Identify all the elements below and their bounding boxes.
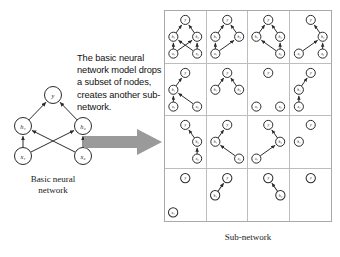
node-label-x1: x₁ [171, 52, 176, 56]
node-label-y: y [183, 176, 186, 180]
subnetwork-cell-8: yh₁x₁ [290, 64, 332, 117]
subnetwork-cell-10: yh₁x₂ [207, 116, 249, 169]
cell-nodes: yh₁ [294, 120, 315, 146]
basic-network-caption-line1: Basic neural [6, 174, 100, 185]
subnetwork-cell-svg-5: yh₁x₁x₂ [165, 64, 206, 116]
subnetwork-cell-svg-14: yh₁ [207, 169, 248, 222]
node-label-x2: x₂ [278, 104, 283, 108]
subnetwork-cell-svg-10: yh₁x₂ [207, 116, 248, 168]
subnetwork-cell-12: yh₁ [290, 116, 332, 169]
edge-x1-to-h2 [177, 40, 192, 51]
subnetwork-cell-15: yh₂ [248, 169, 290, 222]
node-label-x2: x₂ [278, 52, 283, 56]
cell-nodes: yh₁h₂x₁x₂ [169, 15, 202, 58]
node-label-y: y [308, 71, 311, 75]
node-label-x2: x₂ [236, 157, 241, 161]
node-label-y: y [266, 123, 269, 127]
edge-h1-to-y [176, 77, 182, 85]
edge-h2-to-y [60, 102, 77, 120]
node-label-y: y [308, 123, 311, 127]
edge-h2-to-y [272, 183, 278, 191]
cell-nodes: yh₂x₁x₂ [294, 15, 327, 58]
cell-nodes: yx₁x₂ [252, 68, 285, 111]
subnetwork-cell-svg-4: yh₂x₁x₂ [290, 11, 332, 63]
node-label-x1: x₁ [296, 104, 301, 108]
node-label-x1: x₁ [212, 52, 217, 56]
edge-x2-to-h1 [261, 40, 276, 51]
node-label-y: y [225, 123, 228, 127]
node-label-y: y [183, 71, 186, 75]
cell-nodes: yh₁h₂ [210, 68, 243, 94]
cell-edges [260, 130, 277, 156]
subnetwork-cell-svg-13: yx₁ [165, 169, 206, 222]
subnetwork-cell-svg-9: yh₂x₂ [165, 116, 206, 168]
cell-edges [217, 77, 236, 85]
figure-root: yh₁h₂x₁x₂ Basic neural network The basic… [0, 0, 340, 257]
subnetwork-cell-svg-8: yh₁x₁ [290, 64, 332, 116]
subnetwork-cell-svg-15: yh₂ [248, 169, 289, 222]
cell-nodes: yh₂x₂ [181, 120, 202, 163]
cell-nodes: yh₁x₂ [210, 120, 243, 163]
subnetwork-cell-11: yh₂x₁ [248, 116, 290, 169]
node-label-y: y [225, 176, 228, 180]
node-label-y: y [51, 92, 55, 99]
node-label-x2: x₂ [195, 52, 200, 56]
node-label-y: y [266, 71, 269, 75]
edge-h1-to-y [217, 77, 223, 85]
cell-edges [272, 183, 278, 191]
node-label-x1: x₁ [19, 153, 25, 160]
edge-h2-to-y [272, 25, 278, 33]
edge-x2-to-h1 [32, 131, 75, 153]
node-label-x1: x₁ [296, 52, 301, 56]
node-label-y: y [225, 18, 228, 22]
edge-h1-to-y [217, 130, 223, 138]
subnetwork-cell-16: y [290, 169, 332, 222]
subnetwork-cell-svg-3: yh₁h₂x₂ [248, 11, 289, 63]
node-label-x2: x₂ [195, 104, 200, 108]
edge-x2-to-h1 [178, 40, 193, 51]
subnetwork-cell-1: yh₁h₂x₁x₂ [165, 11, 207, 64]
cell-nodes: yh₁h₂x₂ [252, 15, 285, 58]
node-label-y: y [183, 18, 186, 22]
subnetwork-cell-svg-11: yh₂x₁ [248, 116, 289, 168]
subnetwork-cell-6: yh₁h₂ [207, 64, 249, 117]
subnetwork-cell-13: yx₁ [165, 169, 207, 222]
subnetwork-cell-9: yh₂x₂ [165, 116, 207, 169]
edge-h2-to-y [272, 130, 278, 138]
subnetwork-cell-svg-6: yh₁h₂ [207, 64, 248, 116]
node-label-x1: x₁ [171, 210, 176, 214]
edge-x2-to-h1 [220, 145, 235, 156]
cell-nodes: yh₂x₁ [252, 120, 285, 163]
edge-x1-to-h2 [260, 145, 275, 156]
cell-nodes: yh₁x₁x₂ [169, 68, 202, 111]
edge-h2-to-y [189, 25, 195, 33]
node-label-x2: x₂ [320, 52, 325, 56]
subnetwork-cell-2: yh₁h₂x₁ [207, 11, 249, 64]
edge-h1-to-y [217, 25, 223, 33]
edge-h1-to-y [217, 183, 223, 191]
node-label-y: y [266, 176, 269, 180]
cell-nodes: yh₁x₁ [294, 68, 315, 111]
subnetwork-cell-14: yh₁ [207, 169, 249, 222]
edge-h1-to-y [259, 25, 265, 33]
edge-h2-to-y [230, 25, 236, 33]
cell-nodes: yh₁h₂x₁ [210, 15, 243, 58]
subnetwork-caption: Sub-network [164, 232, 332, 242]
cell-nodes: yx₁ [168, 173, 189, 217]
subnetwork-cell-3: yh₁h₂x₂ [248, 11, 290, 64]
edge-x1-to-h2 [302, 40, 317, 51]
node-label-x1: x₁ [171, 104, 176, 108]
subnetwork-grid: yh₁h₂x₁x₂yh₁h₂x₁yh₁h₂x₂yh₂x₁x₂yh₁x₁x₂yh₁… [164, 10, 332, 222]
node-label-x1: x₁ [254, 157, 259, 161]
subnetwork-cell-svg-2: yh₁h₂x₁ [207, 11, 248, 63]
node-label-x2: x₂ [195, 157, 200, 161]
cell-edges [217, 130, 234, 156]
subnetwork-cell-7: yx₁x₂ [248, 64, 290, 117]
edge-h1-to-y [301, 77, 307, 85]
node-label-y: y [183, 123, 186, 127]
node-label-y: y [266, 18, 269, 22]
node-label-y: y [308, 176, 311, 180]
cell-nodes: y [306, 173, 315, 182]
node-label-x1: x₁ [254, 104, 259, 108]
node-label-y: y [225, 71, 228, 75]
